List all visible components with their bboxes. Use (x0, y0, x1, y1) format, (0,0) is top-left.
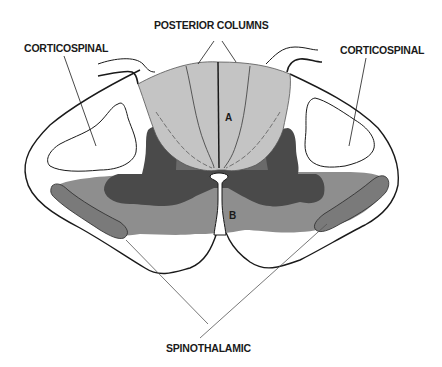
spinal-cord-diagram: POSTERIOR COLUMNS CORTICOSPINAL CORTICOS… (0, 0, 442, 367)
label-region-a: A (225, 112, 232, 123)
label-corticospinal-right: CORTICOSPINAL (340, 44, 425, 56)
posterior-median-septum (218, 62, 219, 168)
label-corticospinal-left: CORTICOSPINAL (24, 42, 109, 54)
dorsal-root-right-lower (287, 59, 322, 72)
label-region-b: B (229, 210, 236, 221)
leader-posterior-left (198, 41, 214, 64)
label-posterior-columns: POSTERIOR COLUMNS (154, 19, 269, 31)
label-spinothalamic: SPINOTHALAMIC (166, 342, 252, 354)
leader-posterior-right (222, 41, 236, 62)
dorsal-root-left-upper (98, 59, 155, 72)
